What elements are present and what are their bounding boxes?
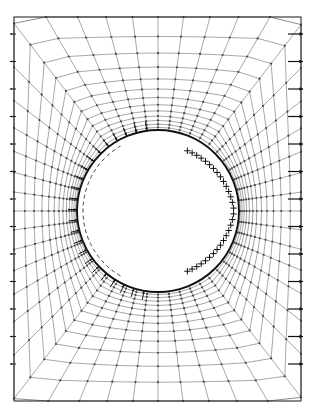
mesh-node [251,222,253,224]
mesh-node [108,124,110,126]
mesh-node [116,364,118,366]
mesh-node [199,283,201,285]
mesh-node [79,270,81,272]
mesh-node [271,179,273,181]
mesh-node [120,299,122,301]
mesh-node [111,290,113,292]
mesh-node [41,210,43,212]
mesh-node [157,365,159,367]
mesh-node [220,363,222,365]
mesh-node [133,122,135,124]
mesh-node [75,273,77,275]
mesh-node [257,287,259,289]
mesh-node [245,362,247,364]
mesh-node [157,381,159,383]
mesh-node [248,263,250,265]
mesh-node [138,66,140,68]
mesh-node [169,304,171,306]
mesh-node [221,274,223,276]
mesh-node [219,148,221,150]
mesh-node [239,273,241,275]
mesh-node [280,194,282,196]
mesh-node [78,242,80,244]
mesh-node [173,330,175,332]
mesh-node [73,319,75,321]
mesh-node [214,135,216,137]
mesh-node [275,119,277,121]
mesh-node [238,232,240,234]
mesh-node [53,210,55,212]
mesh-node [134,381,136,383]
mesh-node [225,157,227,159]
mesh-node [268,146,270,148]
mesh-node [246,234,248,236]
mesh-node [41,94,43,96]
mesh-node [198,364,200,366]
mesh-node [289,193,291,195]
mesh-node [112,318,114,320]
mesh-node [289,227,291,229]
mesh-node [43,62,45,64]
mesh-node [86,302,88,304]
mesh-node [240,175,242,177]
mesh-node [262,105,264,107]
mesh-node [233,309,235,311]
mesh-node [60,306,62,308]
mesh-node [24,210,26,212]
mesh-node [157,309,159,311]
mesh-node [214,284,216,286]
mesh-node [264,239,266,241]
mesh-node [254,266,256,268]
mesh-node [168,293,170,295]
mesh-node [85,334,87,336]
mesh-node [83,267,85,269]
mesh-node [57,37,59,39]
mesh-node [243,160,245,162]
mesh-node [105,277,107,279]
mesh-node [211,139,213,141]
mesh-node [185,106,187,108]
mesh-node [79,150,81,152]
mesh-node [203,381,205,383]
mesh-node [243,260,245,262]
mesh-node [145,304,147,306]
mesh-node [123,291,125,293]
mesh-node [275,300,277,302]
mesh-node [199,53,201,55]
mesh-node [180,122,182,124]
mesh-node [67,247,69,249]
mesh-node [289,245,291,247]
mesh-node [215,69,217,71]
mesh-node [180,36,182,38]
mesh-node [231,253,233,255]
mesh-node [48,196,50,198]
mesh-node [51,315,53,317]
mesh-node [103,281,105,283]
mesh-node [141,88,143,90]
mesh-node [70,277,72,279]
mesh-node [182,302,184,304]
mesh-node [284,45,286,47]
mesh-node [157,119,159,121]
mesh-node [174,78,176,80]
mesh-node [108,295,110,297]
mesh-node [131,112,133,114]
mesh-node [287,135,289,137]
mesh-node [180,298,182,300]
mesh-node [202,318,204,320]
mesh-node [248,157,250,159]
mesh-node [286,111,288,113]
mesh-node [42,241,44,243]
mesh-node [144,116,146,118]
mesh-node [46,146,48,148]
mesh-node [69,362,71,364]
mesh-node [36,279,38,281]
mesh-node [78,347,80,349]
mesh-node [209,300,211,302]
mesh-node [41,326,43,328]
mesh-node [38,301,40,303]
mesh-node [133,298,135,300]
mesh-node [270,163,272,165]
mesh-node [99,349,101,351]
mesh-node [206,295,208,297]
